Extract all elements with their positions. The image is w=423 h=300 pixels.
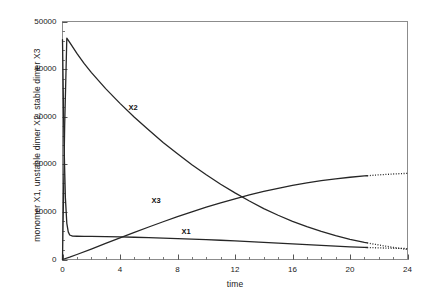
x-tick-label: 8	[163, 265, 193, 274]
x-tick-label: 4	[105, 265, 135, 274]
data-curves	[63, 38, 408, 259]
x-tick-label: 16	[278, 265, 308, 274]
x-tick-label: 0	[48, 265, 78, 274]
curve-x2-solid	[63, 38, 368, 259]
x-tick-label: 12	[220, 265, 250, 274]
curve-label-x3: X3	[151, 196, 160, 205]
y-tick-label: 30000	[15, 112, 57, 121]
x-axis-title: time	[205, 279, 265, 289]
curve-x2-dotted	[367, 243, 407, 250]
curve-x3-solid	[63, 176, 368, 260]
y-tick-label: 0	[15, 255, 57, 264]
curve-x3-dotted	[367, 173, 407, 175]
curve-x1-solid	[63, 40, 368, 248]
y-tick-label: 10000	[15, 207, 57, 216]
y-tick-label: 50000	[15, 17, 57, 26]
y-tick-label: 40000	[15, 64, 57, 73]
x-tick-label: 24	[393, 265, 423, 274]
curve-label-x2: X2	[128, 103, 137, 112]
curve-label-x1: X1	[182, 227, 191, 236]
plot-frame	[63, 22, 408, 260]
chart-figure: monomer X1, unstable dimer X2, stable di…	[0, 0, 423, 300]
x-tick-label: 20	[335, 265, 365, 274]
y-tick-label: 20000	[15, 159, 57, 168]
plot-canvas	[0, 0, 423, 300]
axis-ticks	[63, 23, 409, 261]
